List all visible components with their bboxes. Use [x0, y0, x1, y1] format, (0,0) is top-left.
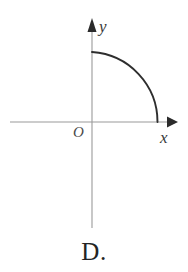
option-label: D.	[0, 238, 188, 266]
x-axis-label: x	[160, 129, 168, 146]
x-axis-arrow-icon	[167, 117, 178, 128]
figure-container: y x O D.	[0, 0, 188, 272]
quarter-circle-arc	[92, 52, 158, 122]
y-axis-arrow-icon	[88, 18, 97, 32]
y-axis-label: y	[99, 18, 107, 35]
origin-label: O	[73, 125, 84, 140]
